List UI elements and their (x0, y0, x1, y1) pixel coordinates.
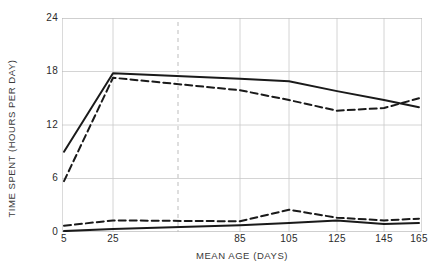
x-tick-145: 145 (375, 233, 393, 244)
chart-container: TIME SPENT (HOURS PER DAY) 24 18 12 6 0 … (0, 0, 445, 277)
y-tick-0: 0 (32, 226, 58, 237)
series-upper-solid (64, 73, 419, 151)
y-tick-12: 12 (32, 119, 58, 130)
x-tick-85: 85 (234, 233, 246, 244)
x-tick-25: 25 (107, 233, 119, 244)
x-tick-125: 125 (328, 233, 346, 244)
y-axis-title: TIME SPENT (HOURS PER DAY) (0, 0, 22, 277)
y-tick-6: 6 (32, 172, 58, 183)
data-series-group (64, 73, 419, 231)
plot-area (62, 18, 422, 232)
x-tick-105: 105 (280, 233, 298, 244)
series-lower-solid (64, 220, 419, 231)
x-axis-title: MEAN AGE (DAYS) (62, 250, 422, 261)
plot-svg (62, 18, 422, 232)
gridlines (62, 18, 422, 232)
y-tick-24: 24 (32, 12, 58, 23)
y-tick-18: 18 (32, 65, 58, 76)
y-axis-tick-labels: 24 18 12 6 0 (28, 0, 58, 277)
series-upper-dashed (64, 78, 419, 181)
x-tick-5: 5 (61, 233, 67, 244)
x-tick-165: 165 (410, 233, 428, 244)
